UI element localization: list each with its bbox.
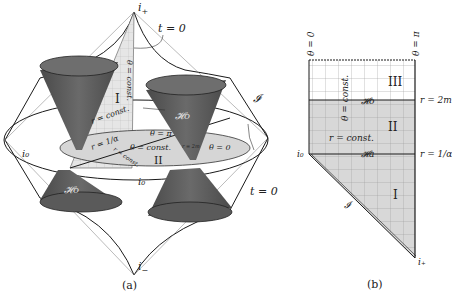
label-b-H-a: 𝓗a [361,149,374,159]
svg-text:i+: i+ [138,1,148,16]
label-region-I: I [115,92,120,106]
figure-a: i+ t = 0 𝓘 I θ = const. r = const. r = 1… [4,1,278,292]
label-b-H-o: 𝓗o [361,96,375,106]
figure-canvas: i+ t = 0 𝓘 I θ = const. r = const. r = 1… [0,0,452,292]
label-b-scri: 𝓘 [344,200,353,210]
label-b-i0: i₀ [297,149,304,159]
label-b-r-1-alpha: r = 1/α [420,149,452,159]
label-H-o-upper: 𝓗o [175,110,190,121]
label-theta-0: θ = 0 [209,143,231,152]
figure-b: θ = 0 θ = π III θ = const. 𝓗o r = 2m II … [297,30,452,291]
label-b-region-I: I [393,188,398,202]
label-scri: 𝓘 [253,92,264,105]
label-b-i-plus: i₊ [418,257,426,267]
label-r-2m: r = 2m [182,143,200,149]
cone-lower-right [148,168,232,222]
label-t0-right: t = 0 [250,185,278,198]
label-region-II: II [154,154,163,167]
label-b-r-2m: r = 2m [420,95,452,105]
label-theta-pi: θ = π [150,129,173,138]
label-t0-top: t = 0 [158,22,186,35]
label-i0-center: i₀ [138,176,145,187]
label-b-theta-0: θ = 0 [306,31,316,56]
label-b-theta-pi: θ = π [411,30,421,56]
label-b-region-II: II [388,120,398,134]
label-theta-const-vertical: θ = const. [125,60,134,101]
label-theta-const: θ = const. [130,143,171,152]
label-b-theta-const: θ = const. [340,75,350,121]
label-b-r-const: r = const. [329,133,374,143]
caption-a: (a) [122,279,137,292]
label-b-region-III: III [388,75,402,89]
label-i0-left: i₀ [22,148,29,159]
caption-b: (b) [367,278,383,291]
label-H-o-lower: 𝓗o [64,184,79,195]
